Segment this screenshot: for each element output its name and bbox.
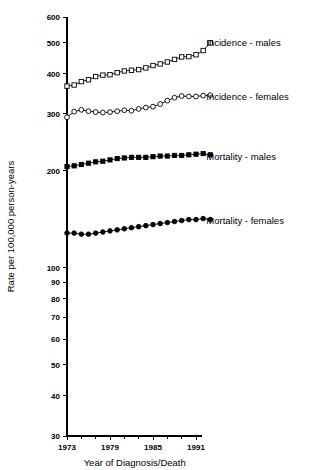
y-tick-label: 400 (47, 70, 61, 79)
data-point-marker (165, 98, 170, 103)
data-point-marker (101, 230, 106, 235)
y-tick-label: 500 (47, 39, 61, 48)
data-point-marker (65, 231, 70, 236)
data-point-marker (187, 217, 192, 222)
data-point-marker (194, 217, 199, 222)
data-point-marker (108, 73, 112, 77)
y-tick-label: 40 (51, 392, 60, 401)
data-point-marker (137, 155, 141, 159)
data-point-marker (136, 107, 141, 112)
data-point-marker (158, 102, 163, 107)
data-point-marker (93, 74, 97, 78)
rate-trends-line-chart: 30405060708090100200300400500600 1973197… (0, 0, 313, 470)
data-point-marker (179, 94, 184, 99)
data-point-marker (108, 110, 113, 115)
data-point-marker (122, 156, 126, 160)
data-point-marker (136, 224, 141, 229)
series-label: Mortality - females (206, 215, 284, 226)
data-point-marker (86, 78, 90, 82)
data-point-marker (108, 229, 113, 234)
data-point-marker (108, 158, 112, 162)
data-point-marker (86, 161, 90, 165)
data-point-marker (65, 84, 69, 88)
data-point-marker (115, 228, 120, 233)
data-point-marker (122, 226, 127, 231)
data-point-marker (151, 155, 155, 159)
series-label: Mortality - males (206, 151, 276, 162)
data-point-marker (115, 109, 120, 114)
data-point-marker (201, 216, 206, 221)
data-point-marker (79, 107, 84, 112)
data-point-marker (186, 94, 191, 99)
data-point-marker (115, 157, 119, 161)
data-point-marker (129, 68, 133, 72)
data-point-marker (194, 94, 199, 99)
data-point-marker (79, 79, 83, 83)
data-point-marker (144, 66, 148, 70)
data-series-group (65, 41, 213, 237)
series-label: Incidence - females (206, 91, 289, 102)
data-point-marker (143, 105, 148, 110)
data-point-marker (201, 93, 206, 98)
y-tick-label: 100 (47, 264, 61, 273)
data-point-marker (94, 160, 98, 164)
y-tick-label: 90 (51, 278, 60, 287)
series-mortality-females (65, 216, 213, 236)
data-point-marker (101, 73, 105, 77)
chart-figure: 30405060708090100200300400500600 1973197… (0, 0, 313, 470)
data-point-marker (187, 153, 191, 157)
y-axis-title: Rate per 100,000 person-years (5, 161, 16, 293)
data-point-marker (151, 222, 156, 227)
data-point-marker (165, 60, 169, 64)
y-tick-label: 80 (51, 295, 60, 304)
data-point-marker (79, 232, 84, 237)
data-point-marker (172, 57, 176, 61)
data-point-marker (101, 159, 105, 163)
data-point-marker (129, 108, 134, 113)
y-tick-label: 30 (51, 432, 60, 441)
series-incidence-males (65, 41, 213, 89)
data-point-marker (201, 151, 205, 155)
data-point-marker (187, 54, 191, 58)
x-axis-title: Year of Diagnosis/Death (84, 457, 186, 468)
data-point-marker (72, 109, 77, 114)
y-tick-label: 200 (47, 167, 61, 176)
x-tick-label: 1973 (58, 443, 76, 452)
data-point-marker (165, 220, 170, 225)
data-point-marker (122, 69, 126, 73)
data-point-marker (65, 164, 69, 168)
data-point-marker (72, 231, 77, 236)
data-point-marker (144, 155, 148, 159)
y-tick-label: 60 (51, 335, 60, 344)
data-point-marker (136, 67, 140, 71)
data-point-marker (172, 95, 177, 100)
data-point-marker (179, 218, 184, 223)
series-mortality-males (65, 151, 213, 168)
y-tick-label: 600 (47, 13, 61, 22)
data-point-marker (158, 62, 162, 66)
data-point-marker (122, 108, 127, 113)
x-tick-label: 1991 (187, 443, 205, 452)
data-point-marker (151, 63, 155, 67)
data-point-marker (100, 110, 105, 115)
data-point-marker (86, 232, 91, 237)
y-tick-label: 50 (51, 361, 60, 370)
data-point-marker (115, 70, 119, 74)
data-point-marker (86, 109, 91, 114)
series-incidence-females (65, 93, 213, 120)
data-point-marker (129, 155, 133, 159)
data-point-marker (172, 153, 176, 157)
data-point-marker (151, 104, 156, 109)
data-point-marker (194, 152, 198, 156)
data-point-marker (144, 223, 149, 228)
data-point-marker (179, 55, 183, 59)
data-point-marker (72, 164, 76, 168)
data-point-marker (79, 162, 83, 166)
data-point-marker (172, 219, 177, 224)
x-tick-label: 1979 (101, 443, 119, 452)
data-point-marker (194, 53, 198, 57)
data-point-marker (180, 153, 184, 157)
y-tick-label: 70 (51, 313, 60, 322)
series-label: Incidence - males (206, 37, 281, 48)
data-point-marker (72, 83, 76, 87)
